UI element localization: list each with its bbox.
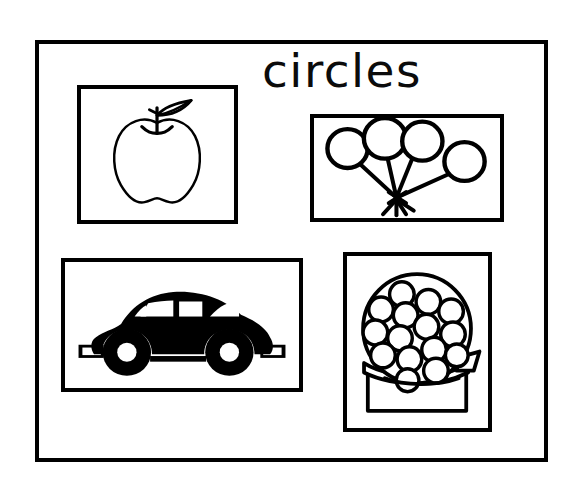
panel-apple[interactable] — [77, 85, 238, 224]
apple-outline-icon — [81, 89, 234, 220]
panel-car[interactable] — [61, 258, 303, 392]
panel-gumball[interactable] — [343, 252, 492, 432]
panel-balloons[interactable] — [310, 114, 504, 222]
balloons-icon — [314, 118, 500, 218]
worksheet-page: circles — [0, 0, 578, 479]
beetle-car-silhouette-icon — [65, 262, 299, 388]
page-title: circles — [262, 46, 502, 96]
gumball-machine-icon — [347, 256, 488, 428]
